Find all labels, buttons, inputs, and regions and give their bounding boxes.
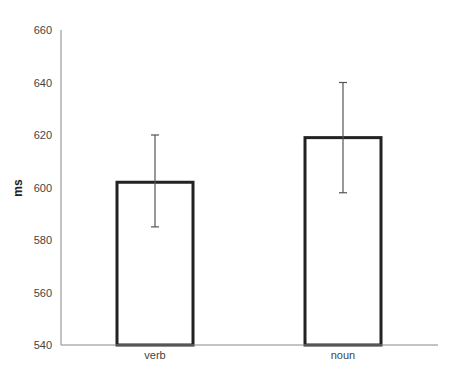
y-axis-label: ms (11, 179, 25, 197)
y-tick-label: 580 (34, 234, 52, 246)
x-tick-label-noun: noun (331, 349, 355, 361)
y-tick-label: 620 (34, 129, 52, 141)
y-tick-label: 600 (34, 182, 52, 194)
bars (117, 83, 381, 346)
y-tick-label: 640 (34, 77, 52, 89)
x-tick-label-verb: verb (144, 349, 165, 361)
y-tick-label: 660 (34, 24, 52, 36)
y-tick-label: 540 (34, 339, 52, 351)
bar-chart: 540560580600620640660 ms verbnoun (0, 0, 458, 375)
y-axis-ticks: 540560580600620640660 (34, 24, 52, 351)
x-axis-labels: verbnoun (144, 349, 355, 361)
y-tick-label: 560 (34, 287, 52, 299)
